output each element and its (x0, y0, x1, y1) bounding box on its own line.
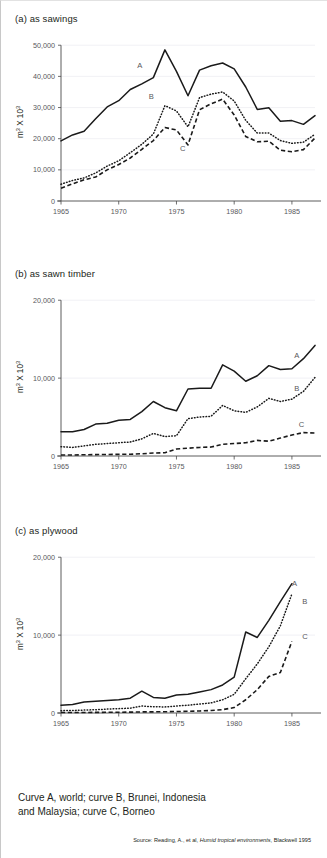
series-line-c (61, 99, 315, 188)
series-line-a (61, 584, 292, 706)
x-tick-label-0: 1965 (53, 207, 69, 216)
y-tick-label-4: 40,000 (33, 72, 55, 81)
chart-c: 010,00020,00019651970197519801985m3 X 10… (1, 543, 327, 753)
y-tick-label-2: 20,000 (33, 296, 55, 305)
source-prefix: Source: Reading, A., et al, (133, 837, 200, 843)
y-axis-title: m3 X 103 (15, 106, 25, 138)
series-line-b (61, 92, 315, 184)
curve-label-a: A (137, 61, 143, 70)
panel-b-title: (b) as sawn timber (15, 268, 95, 279)
x-tick-label-3: 1980 (226, 462, 242, 471)
curve-label-b: B (294, 384, 299, 393)
y-tick-label-2: 20,000 (33, 134, 55, 143)
y-axis-title-sup-2: 3 (15, 361, 21, 364)
x-tick-label-0: 1965 (53, 719, 69, 728)
y-tick-label-0: 0 (51, 452, 55, 461)
y-axis-title-mid: X 10 (16, 109, 25, 129)
chart-b-svg: 010,00020,00019651970197519801985m3 X 10… (1, 286, 327, 496)
x-tick-label-2: 1975 (168, 719, 184, 728)
x-tick-label-4: 1985 (284, 719, 300, 728)
figure-frame: (a) as sawings 010,00020,00030,00040,000… (0, 0, 327, 858)
figure-caption: Curve A, world; curve B, Brunei, Indones… (18, 791, 268, 819)
curve-label-c: C (180, 144, 186, 153)
x-tick-label-1: 1970 (111, 207, 127, 216)
curve-label-c: C (302, 632, 308, 641)
source-suffix: , Blackwell 1995 (271, 837, 311, 843)
panel-c-title: (c) as plywood (15, 525, 78, 536)
y-tick-label-2: 20,000 (33, 553, 55, 562)
y-axis-title: m3 X 103 (15, 361, 25, 393)
panel-a-title: (a) as sawings (15, 13, 78, 24)
y-tick-label-1: 10,000 (33, 631, 55, 640)
curve-label-a: A (294, 351, 300, 360)
x-tick-label-2: 1975 (168, 462, 184, 471)
x-tick-label-3: 1980 (226, 207, 242, 216)
chart-b: 010,00020,00019651970197519801985m3 X 10… (1, 286, 327, 496)
curve-label-b: B (149, 92, 154, 101)
x-tick-label-0: 1965 (53, 462, 69, 471)
chart-a-svg: 010,00020,00030,00040,00050,000196519701… (1, 31, 327, 241)
y-axis-title-sup-2: 3 (15, 618, 21, 621)
source-title: Humid tropical environments (200, 837, 271, 843)
x-tick-label-4: 1985 (284, 462, 300, 471)
source-credit: Source: Reading, A., et al, Humid tropic… (133, 837, 311, 843)
curve-label-c: C (299, 420, 305, 429)
series-line-a (61, 50, 315, 141)
x-tick-label-4: 1985 (284, 207, 300, 216)
x-tick-label-1: 1970 (111, 462, 127, 471)
caption-line-1: Curve A, world; curve B, Brunei, Indones… (18, 791, 268, 805)
chart-c-svg: 010,00020,00019651970197519801985m3 X 10… (1, 543, 327, 753)
y-tick-label-1: 10,000 (33, 165, 55, 174)
series-line-a (61, 345, 315, 431)
y-tick-label-5: 50,000 (33, 41, 55, 50)
y-axis-title-sup-2: 3 (15, 106, 21, 109)
series-line-b (61, 377, 315, 447)
series-line-b (61, 594, 292, 711)
y-tick-label-1: 10,000 (33, 374, 55, 383)
y-axis-title-mid: X 10 (16, 364, 25, 384)
curve-label-b: B (302, 597, 307, 606)
y-tick-label-0: 0 (51, 709, 55, 718)
x-tick-label-2: 1975 (168, 207, 184, 216)
chart-a: 010,00020,00030,00040,00050,000196519701… (1, 31, 327, 241)
caption-line-2: and Malaysia; curve C, Borneo (18, 805, 268, 819)
y-tick-label-0: 0 (51, 197, 55, 206)
y-tick-label-3: 30,000 (33, 103, 55, 112)
curve-label-a: A (292, 579, 298, 588)
x-tick-label-3: 1980 (226, 719, 242, 728)
x-tick-label-1: 1970 (111, 719, 127, 728)
y-axis-title-mid: X 10 (16, 621, 25, 641)
y-axis-title: m3 X 103 (15, 618, 25, 650)
